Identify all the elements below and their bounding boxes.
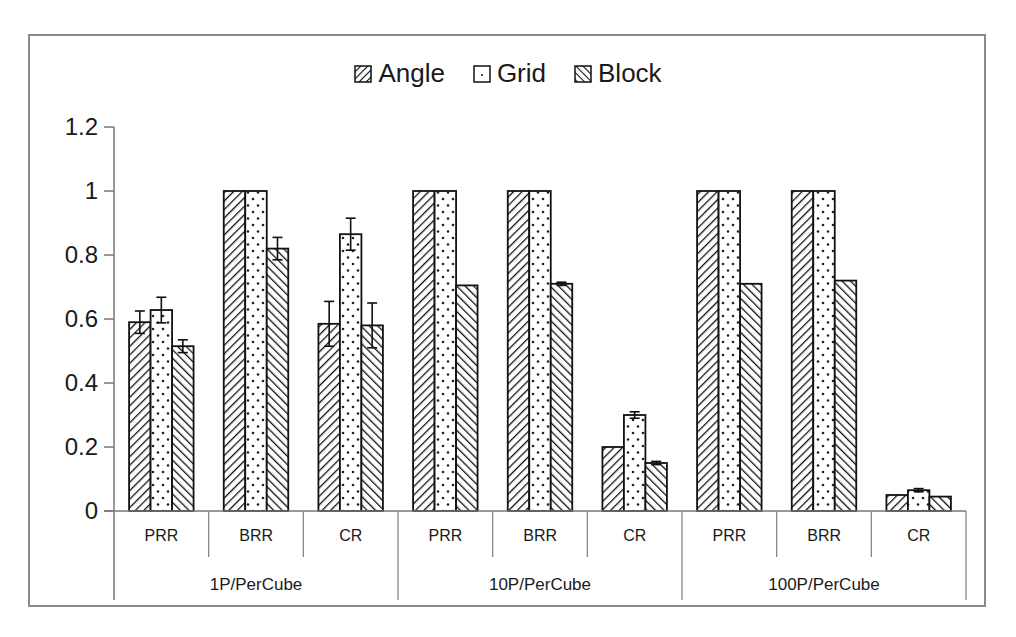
bar-angle — [886, 495, 908, 511]
category-label: PRR — [682, 527, 777, 545]
bar-angle — [792, 191, 814, 511]
bar-angle — [508, 191, 530, 511]
y-tick-label: 1 — [8, 179, 98, 203]
bar-block — [456, 285, 478, 511]
bar-grid — [245, 191, 267, 511]
category-label: BRR — [493, 527, 588, 545]
y-tick-label: 1.2 — [8, 115, 98, 139]
y-tick-label: 0.6 — [8, 307, 98, 331]
category-label: BRR — [777, 527, 872, 545]
bar-angle — [602, 447, 624, 511]
group-label: 10P/PerCube — [398, 575, 682, 595]
bar-block — [267, 249, 289, 511]
category-label: CR — [587, 527, 682, 545]
bar-grid — [719, 191, 741, 511]
group-label: 1P/PerCube — [114, 575, 398, 595]
bar-grid — [435, 191, 457, 511]
group-label: 100P/PerCube — [682, 575, 966, 595]
y-tick-label: 0.4 — [8, 371, 98, 395]
bar-block — [740, 284, 762, 511]
bar-block — [551, 284, 573, 511]
category-label: PRR — [398, 527, 493, 545]
bar-angle — [129, 322, 151, 511]
bar-block — [835, 281, 857, 511]
category-label: PRR — [114, 527, 209, 545]
bar-series — [129, 191, 951, 511]
bar-block — [172, 346, 194, 511]
bar-block — [929, 497, 951, 511]
bar-angle — [224, 191, 246, 511]
category-label: CR — [303, 527, 398, 545]
y-tick-label: 0 — [8, 499, 98, 523]
bar-angle — [697, 191, 719, 511]
bar-angle — [413, 191, 435, 511]
bar-grid — [151, 310, 173, 511]
bar-grid — [340, 234, 362, 511]
bar-grid — [624, 415, 646, 511]
bar-grid — [529, 191, 551, 511]
bar-angle — [318, 324, 340, 511]
bar-grid — [908, 490, 930, 511]
y-tick-label: 0.8 — [8, 243, 98, 267]
category-label: CR — [871, 527, 966, 545]
bar-block — [361, 325, 383, 511]
bar-grid — [813, 191, 835, 511]
bar-block — [645, 463, 667, 511]
y-tick-label: 0.2 — [8, 435, 98, 459]
category-label: BRR — [209, 527, 304, 545]
